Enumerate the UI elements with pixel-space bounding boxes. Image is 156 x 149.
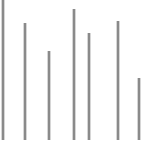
bar-5	[88, 33, 90, 140]
bar-chart	[0, 0, 156, 149]
bar-4	[73, 9, 75, 140]
bar-6	[117, 21, 119, 140]
bar-7	[138, 78, 140, 140]
bar-2	[24, 23, 26, 140]
plot-area	[0, 0, 156, 149]
bar-1	[2, 0, 4, 140]
bar-3	[48, 51, 50, 140]
